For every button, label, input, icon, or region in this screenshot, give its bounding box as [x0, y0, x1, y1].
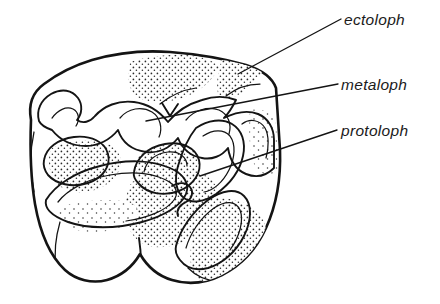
tooth-diagram-figure: ectoloph metaloph protoloph [0, 0, 440, 304]
label-text-group: ectoloph metaloph protoloph [340, 11, 408, 139]
leader-line-ectoloph [238, 19, 341, 74]
label-protoloph: protoloph [340, 122, 408, 139]
label-ectoloph: ectoloph [344, 11, 405, 28]
tooth-diagram-canvas: ectoloph metaloph protoloph [0, 0, 440, 304]
label-metaloph: metaloph [341, 76, 407, 93]
